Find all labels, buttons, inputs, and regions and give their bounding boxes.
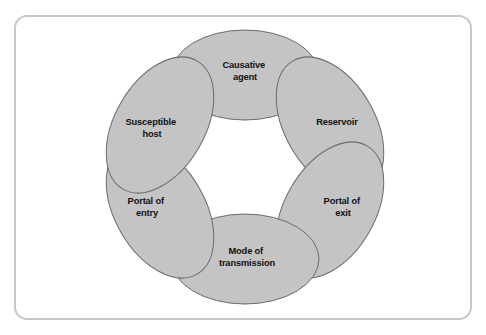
figure-root: Causative agent Reservoir Portal of exit… [0, 0, 486, 335]
cycle-node-reservoir-label: Reservoir [316, 117, 358, 127]
chain-of-infection-cycle-diagram: Causative agent Reservoir Portal of exit… [0, 0, 486, 335]
